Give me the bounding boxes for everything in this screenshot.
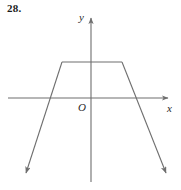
y-axis-label: y (78, 11, 84, 23)
curve-left-segment (26, 62, 62, 173)
origin-label: O (78, 101, 86, 113)
graph-figure: y x O (0, 0, 181, 190)
figure-page: 28. y x O (0, 0, 181, 190)
x-axis-label: x (166, 102, 172, 114)
curve-right-segment (122, 62, 166, 173)
